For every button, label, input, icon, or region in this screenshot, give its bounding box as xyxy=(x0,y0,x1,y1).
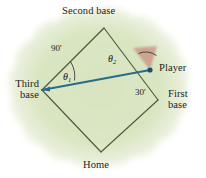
label-third-base: Third base xyxy=(3,78,39,100)
dimension-label-player-to-first: 30' xyxy=(135,88,146,97)
player-point-marker xyxy=(147,67,152,72)
theta2-subscript: 2 xyxy=(113,58,116,65)
label-second-base: Second base xyxy=(62,6,115,17)
dimension-label-third-to-second: 90' xyxy=(51,44,62,53)
angle-label-theta1: θ1 xyxy=(63,72,71,83)
baseball-diamond-figure: Second base Third base First base Home P… xyxy=(0,0,206,178)
label-third-base-line2: base xyxy=(20,89,39,100)
label-first-base-line2: base xyxy=(168,99,187,110)
label-home: Home xyxy=(83,160,109,171)
angle-label-theta2: θ2 xyxy=(108,54,116,65)
theta1-subscript: 1 xyxy=(68,76,71,83)
label-third-base-line1: Third xyxy=(15,78,39,89)
label-first-base-line1: First xyxy=(168,88,188,99)
label-player: Player xyxy=(159,63,186,74)
label-first-base: First base xyxy=(168,88,204,110)
